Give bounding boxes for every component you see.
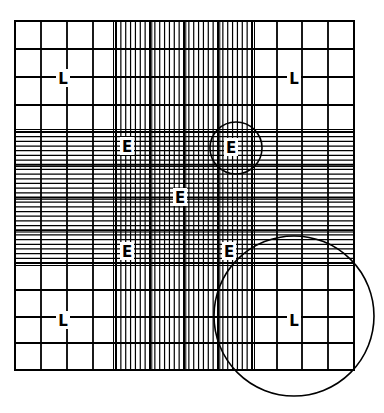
- label-L: L: [56, 69, 70, 88]
- label-E: E: [173, 188, 187, 207]
- label-L: L: [287, 311, 301, 330]
- svg-text:E: E: [122, 243, 132, 261]
- svg-text:E: E: [224, 243, 234, 261]
- svg-text:E: E: [226, 139, 236, 157]
- svg-text:E: E: [175, 189, 185, 207]
- label-E: E: [222, 242, 236, 261]
- hemocytometer-grid-diagram: LLLLEEEEE: [0, 0, 384, 413]
- svg-text:L: L: [58, 70, 68, 88]
- label-E: E: [224, 138, 238, 157]
- svg-text:L: L: [58, 312, 68, 330]
- label-E: E: [120, 137, 134, 156]
- svg-text:L: L: [289, 70, 299, 88]
- label-L: L: [287, 69, 301, 88]
- svg-text:L: L: [289, 312, 299, 330]
- label-L: L: [56, 311, 70, 330]
- label-E: E: [120, 242, 134, 261]
- svg-text:E: E: [122, 138, 132, 156]
